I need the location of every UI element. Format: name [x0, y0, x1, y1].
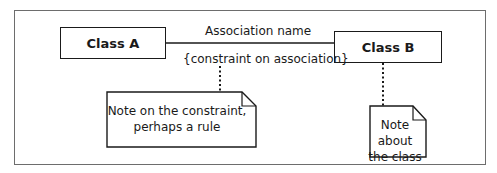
class-a-name: Class A: [87, 36, 140, 51]
note-class: Note about the class: [368, 117, 422, 165]
note-constraint-line1: Note on the constraint,: [107, 103, 247, 119]
note-class-line1: Note about: [368, 117, 422, 149]
note-constraint: Note on the constraint, perhaps a rule: [107, 103, 247, 135]
note-constraint-line2: perhaps a rule: [107, 119, 247, 135]
association-constraint: {constraint on association}: [183, 52, 349, 66]
class-a-box: Class A: [60, 27, 166, 59]
class-b-box: Class B: [334, 31, 442, 63]
note-class-line2: the class: [368, 149, 422, 165]
association-name: Association name: [205, 24, 311, 38]
class-b-name: Class B: [362, 40, 415, 55]
